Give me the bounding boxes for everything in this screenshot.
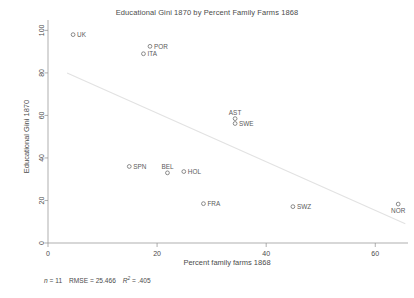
x-axis-title: Percent family farms 1868 — [48, 258, 406, 267]
regression-line — [67, 73, 405, 224]
y-tick-label: 60 — [38, 111, 45, 119]
stats-footnote: n = 11RMSE = 25.466R2 = .405 — [44, 276, 151, 284]
y-tick-label: 80 — [38, 69, 45, 77]
data-point: ITA — [142, 50, 158, 57]
x-tick-label: 0 — [46, 250, 50, 257]
point-label: POR — [154, 43, 168, 50]
point-marker — [166, 171, 170, 175]
y-tick-label: 100 — [38, 24, 45, 36]
point-marker — [396, 202, 400, 206]
plot-area: 0204060801000204060 UKPORITAASTSWESPNBEL… — [0, 0, 414, 298]
rmse-value: = 25.466 — [90, 277, 116, 284]
data-point: HOL — [182, 168, 201, 175]
data-point: UK — [71, 31, 87, 38]
r2-exponent: 2 — [128, 276, 131, 281]
point-marker — [233, 122, 237, 126]
axes: 0204060801000204060 — [38, 20, 408, 257]
point-label: UK — [77, 31, 87, 38]
x-tick-label: 20 — [153, 250, 161, 257]
data-point: SPN — [127, 163, 146, 170]
chart-title: Educational Gini 1870 by Percent Family … — [0, 8, 414, 17]
point-label: HOL — [188, 168, 202, 175]
rmse-label: RMSE — [69, 277, 88, 284]
data-point: POR — [148, 43, 168, 50]
y-axis-title: Educational Gini 1870 — [22, 62, 31, 212]
point-marker — [148, 44, 152, 48]
data-point: NOR — [391, 202, 406, 213]
point-label: ITA — [147, 50, 157, 57]
y-tick-label: 40 — [38, 154, 45, 162]
data-point: AST — [229, 109, 242, 121]
point-label: AST — [229, 109, 242, 116]
y-tick-label: 20 — [38, 196, 45, 204]
point-label: FRA — [207, 200, 221, 207]
point-marker — [233, 117, 237, 121]
n-label: n — [44, 277, 48, 284]
data-point: SWZ — [291, 203, 311, 210]
point-label: BEL — [161, 163, 174, 170]
point-marker — [127, 165, 131, 169]
point-label: SPN — [133, 163, 147, 170]
point-marker — [202, 202, 206, 206]
point-label: SWZ — [297, 203, 311, 210]
scatter-chart: Educational Gini 1870 by Percent Family … — [0, 0, 414, 298]
fit-line — [67, 73, 405, 224]
point-marker — [71, 33, 75, 37]
r2-value: = .405 — [132, 277, 151, 284]
n-value: = 11 — [50, 277, 63, 284]
x-tick-label: 40 — [262, 250, 270, 257]
data-points: UKPORITAASTSWESPNBELHOLFRASWZNOR — [71, 31, 405, 214]
x-tick-label: 60 — [371, 250, 379, 257]
y-tick-label: 0 — [38, 241, 45, 245]
point-label: SWE — [239, 120, 254, 127]
point-marker — [142, 52, 146, 56]
data-point: BEL — [161, 163, 174, 175]
data-point: SWE — [233, 120, 253, 127]
point-marker — [291, 205, 295, 209]
data-point: FRA — [202, 200, 221, 207]
point-label: NOR — [391, 207, 406, 214]
point-marker — [182, 170, 186, 174]
